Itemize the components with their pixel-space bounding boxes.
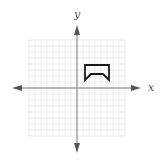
x-axis-right-arrow-icon bbox=[131, 85, 141, 91]
y-axis-up-arrow-icon bbox=[74, 25, 80, 35]
y-axis-down-arrow-icon bbox=[74, 143, 80, 153]
x-axis-label: x bbox=[148, 81, 154, 94]
x-axis-left-arrow-icon bbox=[12, 85, 22, 91]
y-axis bbox=[74, 25, 80, 153]
y-axis-label: y bbox=[74, 8, 80, 21]
coordinate-plane bbox=[0, 0, 161, 161]
